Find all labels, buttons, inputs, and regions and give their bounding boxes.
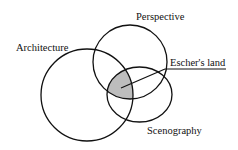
- scenography-label: Scenography: [147, 125, 203, 136]
- escher-land-label: Escher's land: [170, 57, 226, 68]
- venn-canvas: Architecture Perspective Scenography Esc…: [0, 0, 238, 150]
- architecture-label: Architecture: [16, 42, 69, 53]
- perspective-label: Perspective: [136, 11, 185, 22]
- venn-diagram: Architecture Perspective Scenography Esc…: [0, 0, 238, 150]
